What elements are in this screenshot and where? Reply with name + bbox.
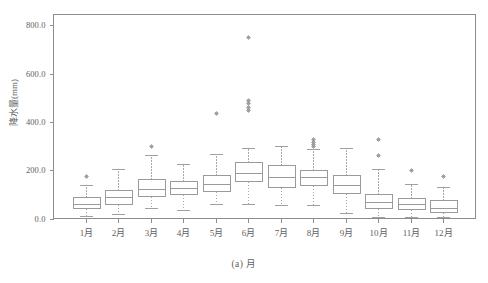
y-tick-label: 400.0 (0, 117, 46, 127)
outlier-point (84, 174, 88, 178)
plot-canvas (0, 0, 488, 283)
outlier-point (376, 153, 380, 157)
outlier-point (246, 105, 250, 109)
plot-frame (54, 15, 476, 219)
box-11月 (398, 168, 425, 217)
outlier-point (214, 111, 218, 115)
y-tick-label: 600.0 (0, 69, 46, 79)
outlier-point (376, 137, 380, 141)
outlier-point (149, 144, 153, 148)
y-axis-ticks (50, 26, 54, 220)
outlier-point (246, 35, 250, 39)
box-10月 (365, 137, 392, 217)
x-axis-ticks (87, 219, 444, 223)
box-2月 (105, 170, 132, 215)
outlier-point (311, 137, 315, 141)
box-iqr (203, 176, 230, 192)
box-4月 (170, 165, 197, 211)
x-tick-label-12: 12月 (424, 226, 464, 239)
y-tick-label: 0.0 (0, 214, 46, 224)
box-8月 (300, 137, 327, 205)
box-1月 (73, 174, 100, 216)
box-series (73, 35, 457, 217)
box-6月 (235, 35, 262, 204)
box-iqr (268, 166, 295, 188)
outlier-point (409, 168, 413, 172)
box-iqr (365, 195, 392, 209)
outlier-point (441, 174, 445, 178)
box-3月 (138, 144, 165, 208)
box-iqr (235, 163, 262, 182)
y-tick-label: 200.0 (0, 165, 46, 175)
y-tick-label: 800.0 (0, 20, 46, 30)
box-iqr (138, 180, 165, 197)
box-12月 (430, 174, 457, 217)
box-9月 (333, 149, 360, 214)
figure-caption: (a) 月 (0, 256, 488, 270)
axes-frame (54, 15, 476, 219)
box-5月 (203, 111, 230, 204)
outlier-point (246, 98, 250, 102)
box-7月 (268, 147, 295, 206)
box-iqr (333, 176, 360, 194)
box-iqr (430, 201, 457, 213)
boxplot-figure: 降水量(mm) 0.0200.0400.0600.0800.0 1月2月3月4月… (0, 0, 488, 283)
box-iqr (73, 198, 100, 209)
